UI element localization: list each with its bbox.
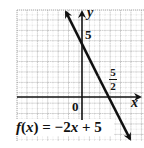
x-intercept-label: 5 2 bbox=[109, 67, 117, 92]
x-intercept-numerator: 5 bbox=[110, 67, 116, 78]
y-axis-label: y bbox=[87, 6, 93, 20]
x-intercept-denominator: 2 bbox=[110, 81, 116, 92]
x-axis-label: x bbox=[131, 96, 138, 110]
y-intercept-label: 5 bbox=[85, 28, 92, 41]
origin-label: 0 bbox=[72, 100, 79, 113]
function-equation-label: f(x) = −2x + 5 bbox=[16, 120, 102, 135]
